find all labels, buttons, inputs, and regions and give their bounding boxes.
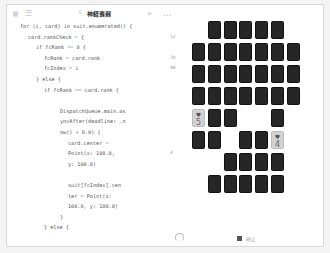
card-face-down[interactable] (208, 65, 221, 83)
stop-button[interactable]: 停止 (237, 235, 256, 242)
line-result[interactable]: 52 (170, 32, 175, 43)
card-face-down[interactable] (255, 65, 268, 83)
code-line[interactable]: yncAfter(deadline: .n (20, 116, 190, 127)
card-face-down[interactable] (208, 131, 221, 149)
code-line[interactable]: DispatchQueue.main.as (20, 106, 190, 117)
card-face-down[interactable] (255, 153, 268, 171)
card-face-down[interactable] (208, 21, 221, 39)
card-face-down[interactable] (287, 87, 300, 105)
code-line[interactable]: for (i, card) in suit.enumerated() { (20, 21, 190, 32)
card-face-down[interactable] (224, 87, 237, 105)
card-face-down[interactable] (192, 131, 205, 149)
restart-icon[interactable] (175, 233, 184, 242)
code-text: DispatchQueue.main.as (20, 245, 126, 247)
heart-icon: ♥ (272, 133, 283, 140)
card-face-down[interactable] (255, 21, 268, 39)
code-text: ow() + 0.9) { (20, 129, 101, 135)
code-text: } else { (20, 76, 61, 82)
stop-icon (237, 236, 242, 241)
card-face-down[interactable] (208, 43, 221, 61)
code-line[interactable]: fcRank = card.rank70 (20, 53, 190, 64)
code-text: fcRank = card.rank (20, 55, 100, 61)
code-line[interactable]: Point(x: 100.0,4 (20, 148, 190, 159)
card-face-down[interactable] (255, 43, 268, 61)
card-rank: 5 (193, 118, 204, 127)
card-face-down[interactable] (239, 43, 252, 61)
code-text: } else { (20, 224, 69, 230)
card-face-down[interactable] (287, 65, 300, 83)
code-text: if fcRank == card.rank { (20, 87, 119, 93)
card-face-down[interactable] (224, 153, 237, 171)
card-face-down[interactable] (255, 175, 268, 193)
code-line[interactable]: 100.0, y: 100.0) (20, 201, 190, 212)
card-face-down[interactable] (192, 43, 205, 61)
card-face-down[interactable] (271, 175, 284, 193)
card-face-down[interactable] (224, 175, 237, 193)
card-face-down[interactable] (208, 109, 221, 127)
card-face-down[interactable] (208, 175, 221, 193)
card-face-down[interactable] (224, 21, 237, 39)
code-line[interactable]: DispatchQueue.main.as (20, 243, 190, 247)
card-face-down[interactable] (271, 87, 284, 105)
line-result[interactable]: 70 (170, 53, 175, 64)
card-face-down[interactable] (192, 65, 205, 83)
code-line[interactable]: if fcRank == 0 { (20, 42, 190, 53)
heart-icon: ♥ (193, 111, 204, 118)
card-face-up[interactable]: ♥5 (192, 109, 205, 127)
card-face-down[interactable] (239, 175, 252, 193)
stop-label: 停止 (246, 235, 256, 242)
card-face-down[interactable] (271, 21, 284, 39)
code-line[interactable]: card.center = (20, 138, 190, 149)
chevron-left-icon[interactable]: ‹ (77, 8, 83, 16)
code-text: } (20, 214, 63, 220)
code-line[interactable]: y: 100.0) (20, 159, 190, 170)
code-line[interactable]: if fcRank == card.rank { (20, 85, 190, 96)
card-face-down[interactable] (239, 87, 252, 105)
code-text: yncAfter(deadline: .n (20, 118, 126, 124)
card-rank: 4 (272, 140, 283, 149)
card-face-up[interactable]: ♥4 (271, 131, 284, 149)
card-face-down[interactable] (271, 43, 284, 61)
plus-icon[interactable]: + (147, 10, 152, 18)
card-face-down[interactable] (271, 153, 284, 171)
more-icon[interactable]: ••• (163, 11, 172, 19)
card-face-down[interactable] (239, 131, 252, 149)
code-line[interactable]: ter = Point(x: (20, 191, 190, 202)
playground-window: ▦ ☰ ‹ 神経衰弱 + ••• for (i, card) in suit.e… (6, 4, 324, 247)
card-face-down[interactable] (192, 87, 205, 105)
code-line[interactable] (20, 95, 190, 106)
code-line[interactable]: } else { (20, 74, 190, 85)
line-result[interactable]: 98 (170, 63, 175, 74)
card-face-down[interactable] (239, 21, 252, 39)
card-face-down[interactable] (208, 87, 221, 105)
page-title: 神経衰弱 (87, 10, 111, 18)
code-line[interactable] (20, 233, 190, 244)
sidebar-icon[interactable]: ▦ (13, 10, 18, 18)
line-result[interactable]: 4 (170, 148, 173, 159)
code-line[interactable]: fcIndex = i98 (20, 63, 190, 74)
code-line[interactable]: } else { (20, 222, 190, 233)
card-face-down[interactable] (224, 65, 237, 83)
code-text: suit[fcIndex].cen (20, 182, 121, 188)
code-text: 100.0, y: 100.0) (20, 203, 118, 209)
card-face-down[interactable] (224, 43, 237, 61)
code-line[interactable]: ow() + 0.9) { (20, 127, 190, 138)
code-text: ter = Point(x: (20, 193, 112, 199)
code-line[interactable]: suit[fcIndex].cen (20, 180, 190, 191)
card-face-down[interactable] (271, 65, 284, 83)
code-text: fcIndex = i (20, 65, 78, 71)
card-face-down[interactable] (271, 109, 284, 127)
code-text: DispatchQueue.main.as (20, 108, 126, 114)
code-line[interactable] (20, 169, 190, 180)
card-face-down[interactable] (239, 65, 252, 83)
code-editor[interactable]: for (i, card) in suit.enumerated() {card… (20, 21, 190, 247)
card-face-down[interactable] (255, 87, 268, 105)
card-face-down[interactable] (255, 131, 268, 149)
code-text: card.rankCheck = { (20, 34, 84, 40)
card-face-down[interactable] (224, 109, 237, 127)
card-face-down[interactable] (239, 153, 252, 171)
code-line[interactable]: } (20, 212, 190, 223)
code-line[interactable]: card.rankCheck = {52 (20, 32, 190, 43)
card-face-down[interactable] (287, 43, 300, 61)
list-icon[interactable]: ☰ (25, 10, 32, 18)
